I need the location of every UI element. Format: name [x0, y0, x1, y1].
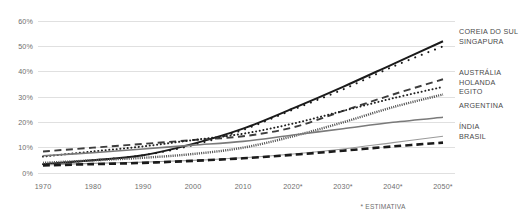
y-tick-label: 10% — [18, 143, 33, 152]
line-chart: 0%10%20%30%40%50%60% 1970198019902000201… — [0, 0, 529, 219]
y-tick-label: 50% — [18, 42, 33, 51]
x-tick-label: 2000 — [185, 182, 202, 191]
chart-page: 0%10%20%30%40%50%60% 1970198019902000201… — [0, 0, 529, 219]
x-tick-label: 2030* — [333, 182, 353, 191]
y-tick-label: 60% — [18, 17, 33, 26]
legend: COREIA DO SULSINGAPURAAUSTRÁLIAHOLANDAEG… — [459, 27, 518, 140]
x-tick-label: 1990 — [135, 182, 152, 191]
footnote: * ESTIMATIVA — [360, 203, 405, 210]
x-tick-label: 2020* — [283, 182, 303, 191]
series-lines — [43, 41, 443, 165]
x-tick-label: 2010 — [235, 182, 252, 191]
x-tick-label: 2040* — [383, 182, 403, 191]
legend-label: ARGENTINA — [459, 101, 503, 110]
y-tick-label: 20% — [18, 118, 33, 127]
legend-label: COREIA DO SUL — [459, 27, 518, 36]
legend-label: AUSTRÁLIA — [459, 68, 501, 77]
y-tick-label: 30% — [18, 93, 33, 102]
legend-label: SINGAPURA — [459, 37, 504, 46]
x-axis-tick-labels: 197019801990200020102020*2030*2040*2050* — [35, 182, 453, 191]
x-tick-label: 1980 — [85, 182, 102, 191]
legend-label: ÍNDIA — [459, 122, 479, 131]
gridlines — [38, 21, 455, 173]
legend-label: EGITO — [459, 87, 483, 96]
x-tick-label: 2050* — [433, 182, 453, 191]
y-axis-tick-labels: 0%10%20%30%40%50%60% — [18, 17, 33, 178]
series-line-coreia-do-sul — [43, 41, 443, 164]
legend-label: BRASIL — [459, 132, 486, 141]
y-tick-label: 0% — [22, 169, 33, 178]
legend-label: HOLANDA — [459, 78, 496, 87]
y-tick-label: 40% — [18, 67, 33, 76]
x-tick-label: 1970 — [35, 182, 52, 191]
